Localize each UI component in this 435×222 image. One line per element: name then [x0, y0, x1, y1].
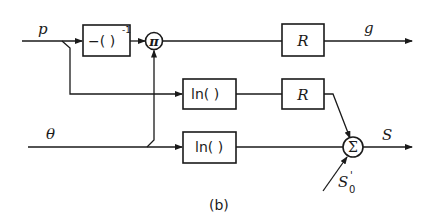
pi-symbol: π — [148, 34, 159, 49]
r-to-sum-line — [324, 94, 350, 138]
svg-text:0: 0 — [349, 184, 355, 195]
inverse-block: −( ) -1 — [83, 25, 131, 56]
g-label: g — [364, 19, 374, 37]
svg-text:': ' — [350, 170, 353, 181]
inverse-block-exponent: -1 — [122, 25, 131, 35]
sum-node: Σ — [343, 137, 363, 157]
s-label: S — [382, 126, 392, 144]
r-top-block: R — [282, 24, 324, 56]
r-top-label: R — [296, 32, 308, 50]
ln-mid-block: ln( ) — [183, 79, 236, 109]
theta-branch-line — [147, 51, 154, 148]
p-label: p — [38, 20, 48, 38]
svg-text:S: S — [338, 173, 348, 191]
ln-mid-label: ln( ) — [191, 86, 219, 102]
block-diagram: p −( ) -1 π R g ln( ) R θ ln( ) — [0, 0, 435, 222]
inverse-block-label: −( ) — [88, 33, 115, 49]
r-mid-block: R — [282, 79, 324, 109]
ln-bottom-block: ln( ) — [183, 132, 236, 163]
multiply-node: π — [146, 33, 163, 50]
sigma-symbol: Σ — [348, 139, 358, 155]
s0-prime-label: S 0 ' — [338, 170, 355, 195]
figure-caption: (b) — [209, 197, 229, 213]
theta-label: θ — [46, 125, 55, 143]
r-mid-label: R — [296, 86, 308, 104]
ln-bottom-label: ln( ) — [195, 139, 223, 155]
